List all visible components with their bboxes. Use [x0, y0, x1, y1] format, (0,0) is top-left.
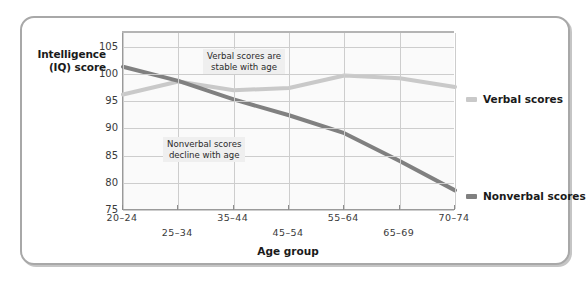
x-axis-tick-mark	[399, 205, 400, 210]
y-axis-tick-label: 80	[88, 177, 118, 188]
x-axis-tick-label: 35–44	[198, 212, 268, 223]
legend-swatch-nonverbal	[466, 194, 477, 199]
x-axis-tick-mark	[343, 205, 344, 210]
legend-item-nonverbal-scores: Nonverbal scores	[466, 190, 586, 202]
iq-by-age-line-chart: Intelligence (IQ) score 1051009590858075…	[0, 0, 588, 284]
x-axis-tick-label: 25–34	[142, 227, 212, 238]
y-axis-tick-label: 100	[88, 68, 118, 79]
y-axis-tick-labels: 1051009590858075	[86, 33, 118, 210]
x-axis-tick-mark	[122, 205, 123, 210]
legend-item-verbal-scores: Verbal scores	[466, 93, 563, 105]
x-axis-tick-mark	[454, 205, 455, 210]
annotation-nonverbal-note: Nonverbal scores decline with age	[163, 137, 245, 162]
legend-label-verbal: Verbal scores	[483, 93, 563, 105]
y-axis-tick-label: 90	[88, 122, 118, 133]
legend-swatch-verbal	[466, 97, 477, 102]
gridline-vertical	[123, 33, 124, 209]
x-axis-tick-mark	[177, 205, 178, 210]
y-axis-tick-label: 95	[88, 95, 118, 106]
gridline-vertical	[344, 33, 345, 209]
gridline-vertical	[455, 33, 456, 209]
legend-label-nonverbal: Nonverbal scores	[483, 190, 586, 202]
y-axis-tick-label: 85	[88, 150, 118, 161]
x-axis-title: Age group	[122, 245, 454, 257]
plot-area	[122, 33, 454, 210]
y-axis-tick-label: 105	[88, 41, 118, 52]
x-axis-tick-mark	[288, 205, 289, 210]
x-axis-tick-labels: 20–2425–3435–4445–5455–6465–6970–74	[122, 210, 454, 244]
gridline-vertical	[178, 33, 179, 209]
x-axis-tick-label: 70–74	[419, 212, 489, 223]
x-axis-tick-label: 55–64	[308, 212, 378, 223]
gridline-vertical	[289, 33, 290, 209]
x-axis-tick-label: 20–24	[87, 212, 157, 223]
annotation-verbal-note: Verbal scores are stable with age	[203, 49, 285, 74]
x-axis-tick-label: 65–69	[364, 227, 434, 238]
x-axis-tick-label: 45–54	[253, 227, 323, 238]
gridline-vertical	[400, 33, 401, 209]
x-axis-tick-mark	[233, 205, 234, 210]
